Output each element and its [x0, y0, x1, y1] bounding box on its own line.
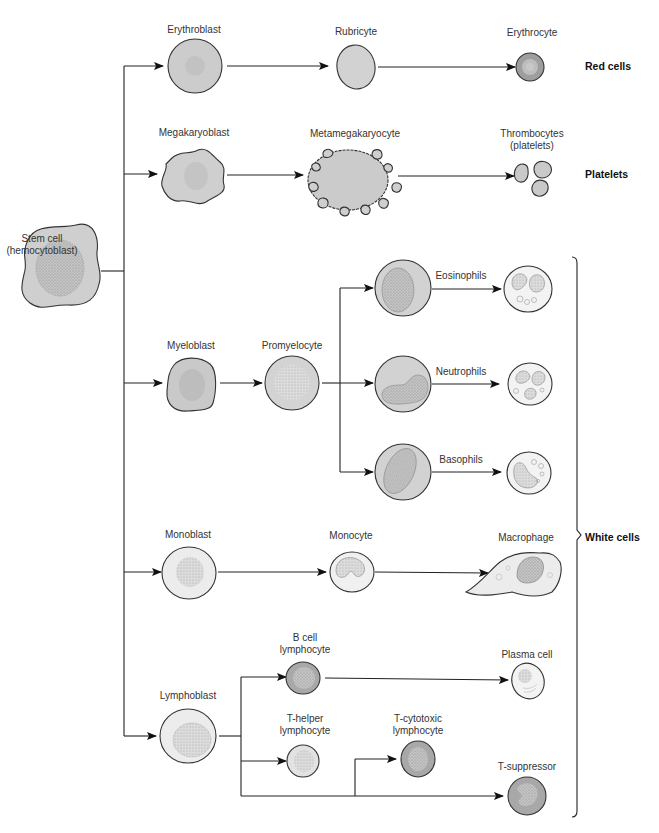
b-cell-label-line1: B cell [280, 632, 331, 644]
t-cytotoxic-label-line1: T-cytotoxic [393, 713, 444, 725]
thrombocytes-label: Thrombocytes (platelets) [500, 128, 563, 152]
monoblast-shape [162, 547, 216, 599]
plasma-cell-shape [507, 659, 549, 704]
t-cytotoxic-label-line2: lymphocyte [393, 725, 444, 737]
monoblast-label: Monoblast [165, 529, 211, 541]
lymphoblast-label: Lymphoblast [160, 690, 216, 702]
basophils-label: Basophils [439, 454, 482, 466]
thrombocytes-label-line2: (platelets) [500, 140, 563, 152]
t-helper-label-line2: lymphocyte [280, 725, 331, 737]
monocyte-label: Monocyte [329, 530, 372, 542]
lymphoblast-shape [160, 709, 216, 763]
stem-cell-label: Stem cell (hemocytoblast) [6, 233, 77, 257]
neutrophils-label: Neutrophils [436, 366, 487, 378]
erythroblast-shape [168, 39, 222, 93]
eosinophils-label: Eosinophils [435, 270, 486, 282]
macrophage-shape [466, 553, 561, 596]
myeloblast-label: Myeloblast [167, 340, 215, 352]
basophil-shape [507, 452, 551, 494]
stem-cell-label-line2: (hemocytoblast) [6, 245, 77, 257]
hematopoiesis-diagram: Stem cell (hemocytoblast) Erythroblast R… [0, 0, 659, 833]
basophil-precursor-shape [375, 443, 431, 500]
white-cells-brace [572, 257, 581, 817]
group-label-white-cells: White cells [585, 531, 640, 543]
t-helper-lymphocyte-shape [287, 745, 319, 777]
megakaryoblast-shape [162, 149, 225, 203]
erythrocyte-shape [516, 53, 544, 81]
t-helper-label-line1: T-helper [280, 713, 331, 725]
erythroblast-label: Erythroblast [167, 24, 220, 36]
plasma-cell-label: Plasma cell [501, 649, 552, 661]
monocyte-shape [330, 552, 374, 592]
thrombocytes-label-line1: Thrombocytes [500, 128, 563, 140]
t-helper-lymphocyte-label: T-helper lymphocyte [280, 713, 331, 737]
neutrophil-precursor-shape [375, 356, 431, 412]
rubricyte-label: Rubricyte [335, 26, 377, 38]
group-label-red-cells: Red cells [585, 60, 631, 72]
diagram-graphics [0, 0, 659, 833]
macrophage-label: Macrophage [498, 532, 554, 544]
megakaryoblast-label: Megakaryoblast [159, 127, 230, 139]
thrombocytes-shape [514, 161, 551, 196]
neutrophil-shape [508, 363, 552, 405]
t-cytotoxic-lymphocyte-shape [401, 741, 435, 777]
group-label-platelets: Platelets [585, 168, 628, 180]
stem-cell-label-line1: Stem cell [6, 233, 77, 245]
myeloblast-shape [167, 358, 216, 411]
b-cell-lymphocyte-label: B cell lymphocyte [280, 632, 331, 656]
t-cytotoxic-lymphocyte-label: T-cytotoxic lymphocyte [393, 713, 444, 737]
t-suppressor-shape [508, 777, 546, 815]
b-cell-lymphocyte-shape [286, 662, 320, 694]
rubricyte-shape [333, 42, 378, 92]
metamegakaryocyte-shape [308, 149, 402, 215]
promyelocyte-label: Promyelocyte [262, 340, 323, 352]
eosinophil-precursor-shape [375, 260, 431, 316]
promyelocyte-shape [265, 356, 319, 410]
b-cell-label-line2: lymphocyte [280, 644, 331, 656]
t-suppressor-label: T-suppressor [498, 761, 556, 773]
eosinophil-shape [504, 266, 552, 312]
metamegakaryocyte-label: Metamegakaryocyte [310, 128, 400, 140]
erythrocyte-label: Erythrocyte [507, 27, 558, 39]
